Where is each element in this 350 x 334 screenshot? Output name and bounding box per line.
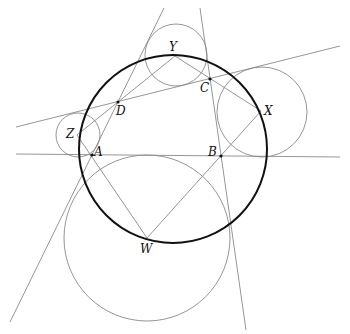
- line-BC: [200, 8, 246, 330]
- circle-X: [217, 67, 307, 157]
- labels: Y C D X Z A B W: [65, 40, 273, 256]
- label-C: C: [200, 81, 209, 95]
- label-Z: Z: [65, 127, 75, 141]
- label-X: X: [263, 104, 273, 118]
- segment-XW: [147, 111, 261, 238]
- label-B: B: [207, 145, 217, 159]
- label-Y: Y: [169, 40, 178, 54]
- segment-YD: [118, 56, 175, 102]
- label-W: W: [140, 242, 154, 256]
- label-A: A: [93, 145, 103, 159]
- geometry-diagram: Y C D X Z A B W: [0, 0, 350, 334]
- line-AB: [16, 154, 340, 157]
- circumcircle-WXYZ: [79, 55, 267, 243]
- line-AD: [10, 8, 164, 322]
- point-B: [219, 154, 222, 157]
- thin-circles: [56, 24, 307, 321]
- label-D: D: [115, 104, 126, 118]
